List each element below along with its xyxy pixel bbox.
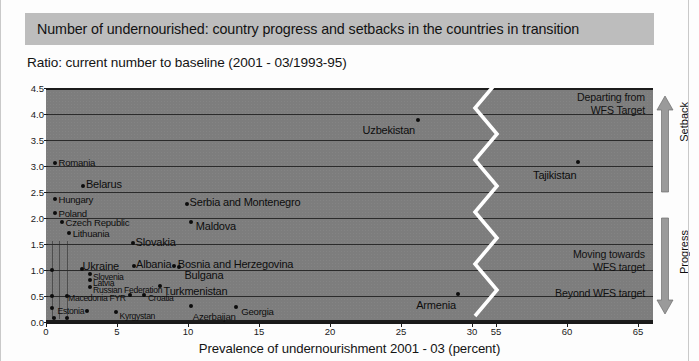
point-label-slovakia: Slovakia	[136, 237, 176, 248]
plot-top-border	[46, 88, 653, 90]
y-tick-label-4.0: 4.0	[20, 110, 44, 120]
data-point	[50, 268, 54, 272]
chart-subtitle: Ratio: current number to baseline (2001 …	[27, 55, 347, 70]
data-point	[50, 306, 54, 310]
point-label-czech-republic: Czech Republic	[66, 218, 130, 228]
y-tick-label-3.5: 3.5	[20, 136, 44, 146]
data-point-uzbekistan	[416, 118, 420, 122]
x-tick-label-15: 15	[254, 327, 265, 337]
point-label-ukraine: Ukraine	[83, 261, 120, 272]
y-tick-label-0.0: 0.0	[20, 318, 44, 328]
gridline-3.0	[46, 166, 653, 167]
data-point-bosnia-and-herzegovina	[172, 264, 176, 268]
x-tick-label-30: 30	[467, 327, 478, 337]
gridline-4.0	[46, 114, 653, 115]
x-axis-title: Prevalence of undernourishment 2001 - 03…	[0, 341, 699, 356]
page-edge-right	[688, 0, 689, 361]
point-label-macedonia-fyr: Macedonia FYR	[68, 294, 126, 303]
gridline-3.5	[46, 140, 653, 141]
annotation-beyond: Beyond WFS target	[555, 287, 645, 300]
data-point-latvia	[88, 278, 92, 282]
data-point-georgia	[234, 305, 238, 309]
y-axis: 0.00.51.01.52.02.53.03.54.04.5	[18, 88, 44, 322]
point-label-uzbekistan: Uzbekistan	[363, 125, 415, 136]
point-label-kyrgystan: Kyrgystan	[120, 312, 156, 321]
y-tick-3.5	[44, 140, 48, 141]
x-tick-label-10: 10	[183, 327, 194, 337]
data-point	[65, 316, 69, 320]
data-point	[52, 316, 56, 320]
data-point-azerbaijan	[189, 304, 193, 308]
data-point-poland	[53, 211, 57, 215]
y-tick-label-1.0: 1.0	[20, 266, 44, 276]
annotation-departing: Departing from WFS Target	[577, 91, 645, 117]
y-tick-2.5	[44, 192, 48, 193]
y-tick-0.5	[44, 296, 48, 297]
y-tick-label-0.5: 0.5	[20, 292, 44, 302]
y-tick-3.0	[44, 166, 48, 167]
direction-arrows: Setback Progress	[656, 88, 699, 322]
data-point-slovakia	[131, 241, 135, 245]
y-tick-label-2.0: 2.0	[20, 214, 44, 224]
data-point	[50, 294, 54, 298]
title-banner: Number of undernourished: country progre…	[25, 13, 654, 45]
y-tick-4.5	[44, 88, 48, 89]
x-tick-label-0: 0	[43, 327, 48, 337]
data-point-romania	[53, 161, 57, 165]
gridline-2.5	[46, 192, 653, 193]
y-tick-1.5	[44, 244, 48, 245]
page-edge-left	[0, 0, 1, 361]
point-label-romania: Romania	[59, 158, 96, 168]
data-point-lithuania	[67, 231, 71, 235]
gridline-2.0	[46, 218, 653, 219]
point-label-georgia: Georgia	[241, 307, 273, 317]
data-point-estonia	[85, 309, 89, 313]
data-point-serbia-and-montenegro	[185, 202, 189, 206]
x-tick-label-5: 5	[114, 327, 119, 337]
data-point-slovenia	[88, 272, 92, 276]
y-tick-label-3.0: 3.0	[20, 162, 44, 172]
y-tick-label-1.5: 1.5	[20, 240, 44, 250]
point-label-albania: Albania	[136, 259, 171, 270]
data-point-armenia	[456, 292, 460, 296]
point-label-hungary: Hungary	[59, 195, 94, 205]
data-point-kyrgystan	[114, 310, 118, 314]
y-tick-2.0	[44, 218, 48, 219]
point-label-serbia-and-montenegro: Serbia and Montenegro	[190, 197, 301, 208]
point-label-belarus: Belarus	[86, 179, 122, 190]
data-point-russian-federation	[88, 285, 92, 289]
point-label-bulgana: Bulgana	[184, 270, 223, 281]
x-tick-label-20: 20	[325, 327, 336, 337]
x-tick-label-55: 55	[491, 327, 502, 337]
data-point-hungary	[53, 197, 57, 201]
data-point-czech-republic	[60, 220, 64, 224]
point-label-estonia: Estonia	[58, 307, 85, 316]
data-point-maldova	[189, 220, 193, 224]
point-label-croatia: Croatia	[148, 294, 174, 303]
plot-area: RomaniaBelarusHungaryPolandSerbia and Mo…	[46, 88, 653, 322]
x-tick-label-25: 25	[396, 327, 407, 337]
data-point-tajikistan	[576, 160, 580, 164]
y-tick-label-2.5: 2.5	[20, 188, 44, 198]
point-label-armenia: Armenia	[416, 300, 456, 311]
point-label-azerbaijan: Azerbaijan	[193, 312, 236, 322]
data-point-belarus	[81, 184, 85, 188]
chart-figure: Number of undernourished: country progre…	[0, 0, 699, 361]
point-label-maldova: Maldova	[196, 221, 236, 232]
chart-title: Number of undernourished: country progre…	[25, 21, 579, 37]
point-label-tajikistan: Tajikistan	[533, 170, 576, 181]
y-tick-1.0	[44, 270, 48, 271]
x-axis-line	[46, 322, 653, 324]
y-tick-4.0	[44, 114, 48, 115]
x-tick-label-60: 60	[562, 327, 573, 337]
gridline-1.0	[46, 270, 653, 271]
x-tick-label-65: 65	[633, 327, 644, 337]
y-tick-label-4.5: 4.5	[20, 84, 44, 94]
annotation-moving-towards: Moving towards WFS target	[573, 248, 645, 274]
point-label-lithuania: Lithuania	[73, 229, 110, 239]
